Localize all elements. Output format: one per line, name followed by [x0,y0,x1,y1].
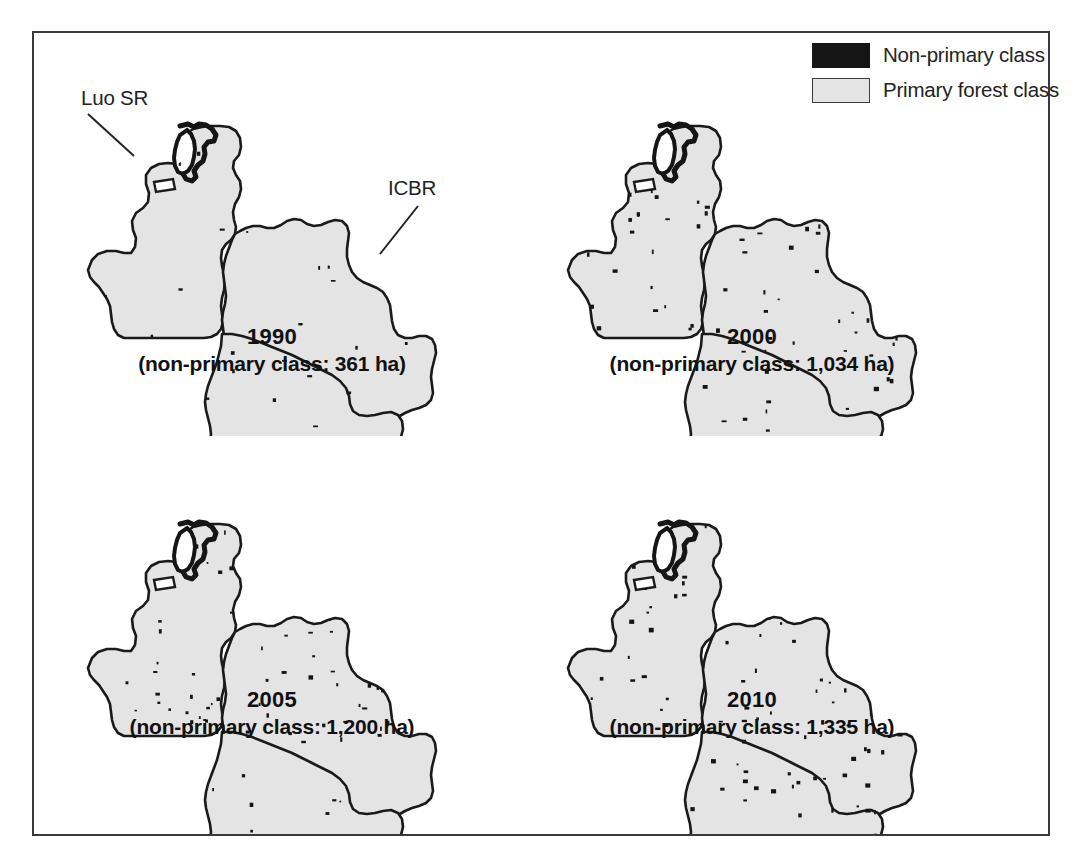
lake-feature [654,130,675,174]
panel-subcaption-2005: (non-primary class: 1,200 ha) [62,714,482,740]
leader-line-luo-sr [76,106,156,166]
lake-feature [174,130,195,174]
annotation-icbr: ICBR [388,176,436,200]
panel-subcaption-1990: (non-primary class: 361 ha) [62,351,482,377]
map-panel-1990: 1990 (non-primary class: 361 ha) Luo SR … [36,34,546,436]
enclave-feature [634,577,655,590]
map-panel-2005: 2005 (non-primary class: 1,200 ha) [36,432,546,834]
panel-year-1990: 1990 [62,324,482,351]
map-shape-group-1990 [85,124,436,436]
map-shape-group-2000 [564,124,916,436]
figure-root: Non-primary class Primary forest class 1… [0,0,1077,863]
map-shape-group-2005 [87,522,436,834]
panel-subcaption-2000: (non-primary class: 1,034 ha) [542,351,962,377]
panel-year-2010: 2010 [542,687,962,714]
map-panel-2000: 2000 (non-primary class: 1,034 ha) [516,34,1026,436]
leader-line-icbr [366,200,436,262]
map-2010 [516,432,1026,834]
panel-year-2000: 2000 [542,324,962,351]
map-2005 [36,432,546,834]
enclave-feature [154,577,175,590]
lake-feature [654,528,675,572]
map-shape-group-2010 [564,522,916,834]
panel-caption-2000: 2000 (non-primary class: 1,034 ha) [542,324,962,376]
map-panel-2010: 2010 (non-primary class: 1,335 ha) [516,432,1026,834]
panel-year-2005: 2005 [62,687,482,714]
lake-feature [174,528,195,572]
panel-subcaption-2010: (non-primary class: 1,335 ha) [542,714,962,740]
panel-caption-2010: 2010 (non-primary class: 1,335 ha) [542,687,962,739]
panel-caption-2005: 2005 (non-primary class: 1,200 ha) [62,687,482,739]
panel-caption-1990: 1990 (non-primary class: 361 ha) [62,324,482,376]
enclave-feature [154,179,175,192]
